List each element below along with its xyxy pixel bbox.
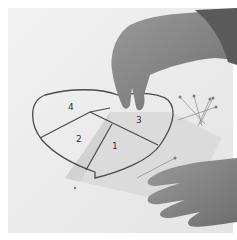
section-label-4: 4 xyxy=(68,102,74,112)
section-label-1: 1 xyxy=(112,141,118,151)
section-label-2: 2 xyxy=(76,134,82,144)
section-label-3: 3 xyxy=(136,115,142,125)
photo-scene: 4 2 1 3 xyxy=(0,0,237,240)
photo: 4 2 1 3 xyxy=(0,0,237,240)
